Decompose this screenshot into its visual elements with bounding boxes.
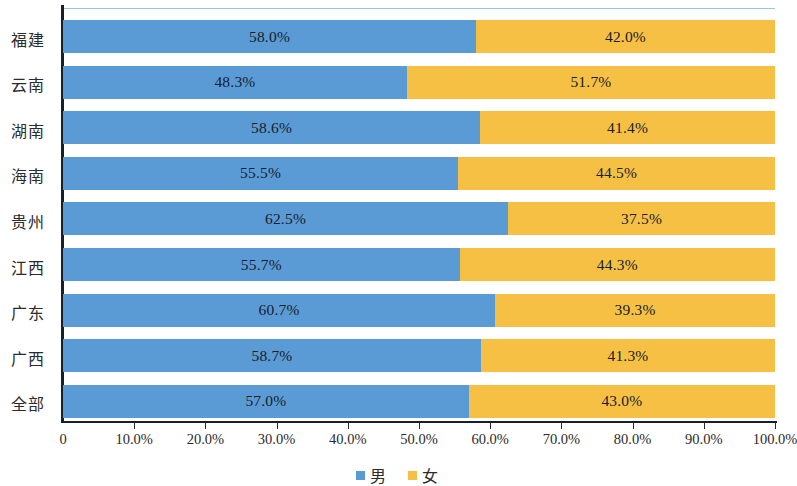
bar-segment-male: 58.0%: [63, 20, 476, 53]
plot-area: 58.0%42.0%48.3%51.7%58.6%41.4%55.5%44.5%…: [63, 8, 775, 422]
bar-segment-male: 58.6%: [63, 111, 480, 144]
category-label: 广西: [0, 346, 56, 370]
category-label: 福建: [0, 27, 56, 51]
legend-label: 女: [422, 463, 438, 486]
x-tick-label: 20.0%: [187, 431, 224, 448]
bar-row: 58.6%41.4%: [63, 111, 775, 144]
bar-segment-female: 41.3%: [481, 339, 775, 372]
x-tick-label: 50.0%: [400, 431, 437, 448]
bar-segment-male: 57.0%: [63, 385, 469, 418]
bar-segment-male: 55.5%: [63, 157, 458, 190]
bar-segment-male: 48.3%: [63, 66, 407, 99]
chart-legend: 男女: [0, 463, 793, 486]
x-tick-label: 100.0%: [753, 431, 797, 448]
x-tick-mark: [134, 423, 135, 429]
category-label: 湖南: [0, 118, 56, 142]
bar-segment-male: 58.7%: [63, 339, 481, 372]
bar-segment-female: 44.5%: [458, 157, 775, 190]
bar-row: 57.0%43.0%: [63, 385, 775, 418]
bar-row: 55.7%44.3%: [63, 248, 775, 281]
bar-segment-male: 60.7%: [63, 294, 495, 327]
x-tick-label: 70.0%: [543, 431, 580, 448]
bar-row: 48.3%51.7%: [63, 66, 775, 99]
bar-segment-female: 42.0%: [476, 20, 775, 53]
x-tick-mark: [490, 423, 491, 429]
legend-swatch-icon: [356, 471, 365, 480]
x-tick-mark: [561, 423, 562, 429]
x-tick-mark: [348, 423, 349, 429]
x-tick-mark: [277, 423, 278, 429]
bar-row: 62.5%37.5%: [63, 202, 775, 235]
category-label: 江西: [0, 255, 56, 279]
bar-row: 58.7%41.3%: [63, 339, 775, 372]
x-tick-mark: [633, 423, 634, 429]
bar-segment-male: 62.5%: [63, 202, 508, 235]
legend-item[interactable]: 女: [408, 463, 438, 486]
bar-segment-female: 39.3%: [495, 294, 775, 327]
x-tick-mark: [205, 423, 206, 429]
legend-item[interactable]: 男: [356, 463, 386, 486]
category-label: 全部: [0, 391, 56, 415]
bar-segment-female: 44.3%: [460, 248, 775, 281]
bar-row: 58.0%42.0%: [63, 20, 775, 53]
bar-segment-female: 43.0%: [469, 385, 775, 418]
x-tick-label: 40.0%: [329, 431, 366, 448]
x-tick-label: 30.0%: [258, 431, 295, 448]
bar-row: 55.5%44.5%: [63, 157, 775, 190]
bar-row: 60.7%39.3%: [63, 294, 775, 327]
bar-segment-female: 37.5%: [508, 202, 775, 235]
bar-segment-female: 51.7%: [407, 66, 775, 99]
bar-segment-male: 55.7%: [63, 248, 460, 281]
x-tick-label: 90.0%: [685, 431, 722, 448]
x-tick-label: 0: [59, 431, 66, 448]
x-tick-mark: [704, 423, 705, 429]
bar-segment-female: 41.4%: [480, 111, 775, 144]
legend-label: 男: [370, 463, 386, 486]
x-tick-label: 80.0%: [614, 431, 651, 448]
category-label: 云南: [0, 72, 56, 96]
legend-swatch-icon: [408, 471, 417, 480]
category-label: 贵州: [0, 209, 56, 233]
category-label: 海南: [0, 163, 56, 187]
category-label: 广东: [0, 300, 56, 324]
x-tick-mark: [775, 423, 776, 429]
x-tick-mark: [419, 423, 420, 429]
x-tick-label: 10.0%: [115, 431, 152, 448]
x-tick-label: 60.0%: [471, 431, 508, 448]
